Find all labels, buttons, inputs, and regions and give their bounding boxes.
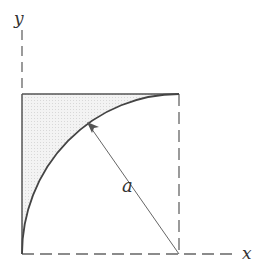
radius-line	[89, 125, 179, 254]
quarter-circle-diagram: y x a	[0, 0, 264, 272]
radius-label: a	[122, 175, 133, 196]
y-axis-label: y	[13, 8, 24, 28]
shaded-region	[22, 94, 179, 254]
x-axis-label: x	[242, 243, 252, 263]
